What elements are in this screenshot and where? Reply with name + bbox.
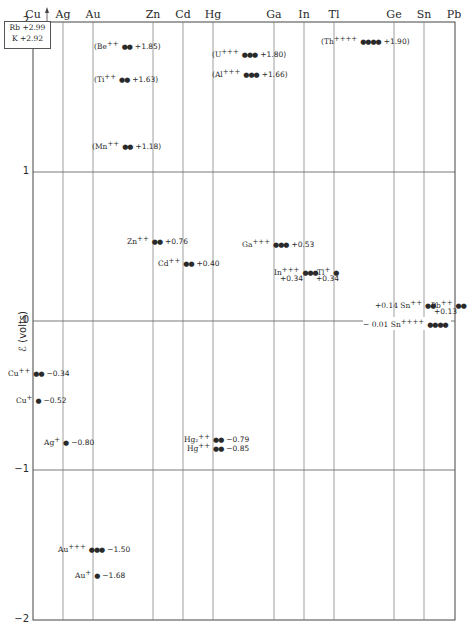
ion-au3: Au+++●●●−1.50	[58, 542, 130, 555]
ion-hg: Hg++●●−0.85	[187, 441, 249, 454]
ion-sn2: +0.14 Sn++●●	[375, 298, 438, 311]
column-label-ag: Ag	[56, 8, 71, 21]
ion-th: (Th++++●●●●+1.90)	[321, 34, 410, 47]
ion-ti: (Ti++●●+1.63)	[94, 72, 158, 85]
ion-be: (Be++●●+1.85)	[94, 39, 161, 52]
y-axis-label: ℰ (volts)	[17, 302, 28, 362]
ion-cd: Cd++●●+0.40	[158, 256, 219, 269]
ytick-1: 1	[9, 165, 29, 176]
column-label-cd: Cd	[175, 8, 190, 21]
ion-pb-value: +0.13	[434, 307, 457, 317]
column-label-au: Au	[85, 8, 100, 21]
column-label-hg: Hg	[205, 8, 222, 21]
column-label-ga: Ga	[266, 8, 281, 21]
ion-in-value: +0.34	[280, 274, 303, 284]
offscale-box: Rb +2.99 K +2.92	[4, 21, 51, 49]
ion-ga: Ga+++●●●+0.53	[242, 237, 314, 250]
ion-tl-value: +0.34	[316, 274, 339, 284]
ion-mn: (Mn++●●+1.18)	[92, 139, 161, 152]
rb-entry: Rb +2.99	[5, 22, 50, 33]
column-label-in: In	[298, 8, 309, 21]
ion-cu1: Cu+●−0.52	[16, 393, 67, 406]
ion-u: (U+++●●●+1.80)	[212, 47, 286, 60]
ion-sn4: − 0.01 Sn++++●●●●	[363, 317, 451, 330]
column-label-zn: Zn	[146, 8, 161, 21]
column-label-tl: Tl	[329, 8, 340, 21]
ion-al: (Al+++●●●+1.66)	[212, 67, 288, 80]
ion-au1: Au+●−1.68	[75, 568, 125, 581]
column-label-sn: Sn	[417, 8, 432, 21]
k-entry: K +2.92	[5, 33, 50, 44]
ytick-neg1: −1	[9, 463, 29, 474]
ion-ag: Ag+●−0.80	[44, 435, 94, 448]
ion-cu2: Cu++●●−0.34	[8, 366, 70, 379]
ion-zn: Zn++●●+0.76	[127, 234, 188, 247]
ytick-neg2: −2	[9, 613, 29, 623]
column-label-ge: Ge	[386, 8, 401, 21]
column-label-pb: Pb	[447, 8, 461, 21]
